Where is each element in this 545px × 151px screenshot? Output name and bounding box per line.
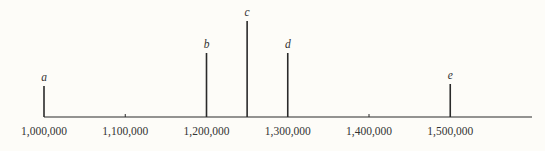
x-axis-tick-label: 1,200,000 — [184, 125, 230, 138]
spike-label-a: a — [41, 71, 47, 83]
spike-series — [44, 21, 450, 117]
x-axis-tick-labels: 1,000,0001,100,0001,200,0001,300,0001,40… — [21, 125, 474, 138]
spike-label-e: e — [448, 69, 453, 81]
x-axis-tick-label: 1,000,000 — [21, 125, 67, 138]
x-axis-tick-label: 1,500,000 — [427, 125, 473, 138]
spike-label-c: c — [245, 6, 250, 18]
spike-label-b: b — [204, 38, 210, 50]
spike-chart: 1,000,0001,100,0001,200,0001,300,0001,40… — [0, 0, 545, 151]
x-axis-tick-label: 1,400,000 — [346, 125, 392, 138]
x-axis-tick-label: 1,100,000 — [102, 125, 148, 138]
spike-label-d: d — [285, 38, 291, 50]
x-axis-tick-label: 1,300,000 — [265, 125, 311, 138]
